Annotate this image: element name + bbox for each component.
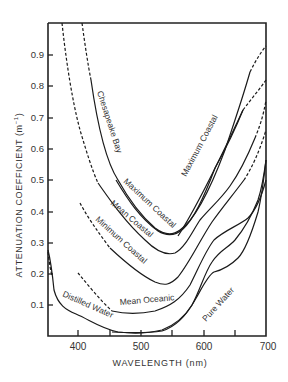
y-tick-label: 0.4 [31, 206, 44, 217]
y-tick-labels: 0.1 0.2 0.3 0.4 0.5 0.6 0.7 0.8 0.9 [31, 49, 44, 310]
y-tick-label: 0.5 [31, 174, 44, 185]
label-maximum-coastal-upper: Maximum Coastal [179, 113, 220, 178]
curve-chesapeake-bay-dashed-end [250, 46, 266, 72]
y-tick-label: 0.9 [31, 49, 44, 60]
label-pure-water: Pure Water [200, 285, 236, 324]
label-chesapeake-bay: Chesapeake Bay [95, 90, 125, 155]
label-distilled-water: Distilled Water [61, 289, 115, 320]
x-tick-label: 400 [70, 341, 87, 352]
svg-text:ATTENUATION COEFFICIENT (m−1): ATTENUATION COEFFICIENT (m−1) [13, 113, 24, 278]
curve-chesapeake-bay-dashed [82, 23, 91, 80]
axes-frame [48, 23, 266, 336]
curve-mean-coastal-dashed [62, 23, 98, 183]
y-tick-label: 0.3 [31, 237, 44, 248]
label-mean-oceanic: Mean Oceanic [119, 292, 175, 307]
y-tick-label: 0.2 [31, 268, 44, 279]
y-tick-label: 0.6 [31, 143, 44, 154]
x-tick-label: 600 [196, 341, 213, 352]
y-tick-label: 0.8 [31, 80, 44, 91]
curves [48, 23, 266, 333]
y-tick-label: 0.1 [31, 299, 44, 310]
y-axis-title: ATTENUATION COEFFICIENT (m−1) [13, 113, 24, 278]
x-tick-label: 700 [260, 341, 277, 352]
x-tick-label: 500 [133, 341, 150, 352]
curve-labels: Chesapeake Bay Maximum Coastal Maximum C… [61, 90, 236, 324]
x-tick-labels: 400 500 600 700 [70, 341, 277, 352]
y-tick-label: 0.7 [31, 112, 44, 123]
curve-mean-coastal-dashed-end [255, 100, 266, 138]
attenuation-chart: 0.1 0.2 0.3 0.4 0.5 0.6 0.7 0.8 0.9 400 … [0, 0, 288, 382]
curve-distilled-water [48, 160, 266, 333]
x-axis-title: WAVELENGTH (nm) [112, 358, 207, 368]
